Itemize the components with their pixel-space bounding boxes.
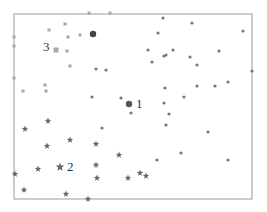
- dot-marker: [162, 101, 165, 104]
- dot-marker: [90, 95, 93, 98]
- square-marker: [67, 36, 70, 39]
- cluster-label-3: 3: [43, 39, 50, 54]
- dot-marker: [161, 16, 164, 19]
- star-marker: [116, 152, 122, 158]
- dot-marker: [226, 158, 229, 161]
- square-marker: [88, 12, 91, 15]
- dot-marker: [195, 63, 198, 66]
- star-marker: [21, 187, 27, 193]
- square-marker: [109, 12, 112, 15]
- plot-frame: [14, 14, 252, 199]
- dot-marker: [156, 31, 159, 34]
- star-marker: [12, 171, 18, 177]
- centroid-square-marker: [54, 48, 59, 53]
- star-marker: [94, 175, 100, 181]
- dot-marker: [206, 130, 209, 133]
- square-marker: [48, 29, 51, 32]
- dot-marker: [190, 21, 193, 24]
- star-marker: [45, 118, 51, 124]
- dot-marker: [182, 95, 185, 98]
- square-marker: [13, 77, 16, 80]
- dot-marker: [226, 80, 229, 83]
- dot-marker: [171, 48, 174, 51]
- star-marker: [125, 175, 131, 181]
- cluster-label-1: 1: [136, 96, 143, 111]
- square-marker: [64, 23, 67, 26]
- square-marker: [69, 65, 72, 68]
- dot-marker: [217, 49, 220, 52]
- star-marker: [35, 166, 41, 172]
- frame-border: [14, 14, 252, 199]
- scatter-plot: 312: [0, 0, 267, 212]
- star-marker: [22, 126, 28, 132]
- dot-marker: [167, 112, 170, 115]
- square-marker: [44, 84, 47, 87]
- cluster-label-2: 2: [67, 159, 74, 174]
- dot-marker: [163, 86, 166, 89]
- dot-marker: [129, 111, 132, 114]
- dot-marker: [195, 84, 198, 87]
- dot-marker: [100, 126, 103, 129]
- dot-marker: [164, 123, 167, 126]
- star-marker: [93, 141, 99, 147]
- star-marker: [67, 137, 73, 143]
- dot-marker: [241, 29, 244, 32]
- dot-marker: [155, 158, 158, 161]
- square-marker: [66, 50, 69, 53]
- square-marker: [13, 36, 16, 39]
- star-marker: [63, 191, 69, 197]
- dot-marker: [104, 68, 107, 71]
- star-marker: [44, 143, 50, 149]
- square-marker: [13, 45, 16, 48]
- dot-marker: [188, 55, 191, 58]
- dot-marker: [146, 48, 149, 51]
- star-marker: [85, 196, 91, 202]
- dot-marker: [94, 67, 97, 70]
- star-marker: [143, 173, 149, 179]
- dot-marker: [213, 84, 216, 87]
- square-marker: [79, 34, 82, 37]
- centroid-star-marker: [56, 162, 65, 170]
- centroid-dot-marker: [126, 101, 132, 107]
- square-marker: [22, 90, 25, 93]
- dot-marker: [179, 151, 182, 154]
- centroid-dot-marker: [90, 31, 96, 37]
- star-marker: [137, 170, 143, 176]
- dot-marker: [150, 60, 153, 63]
- dot-marker: [164, 53, 167, 56]
- star-marker: [93, 162, 99, 168]
- dot-marker: [250, 69, 253, 72]
- square-marker: [45, 90, 48, 93]
- dot-marker: [119, 96, 122, 99]
